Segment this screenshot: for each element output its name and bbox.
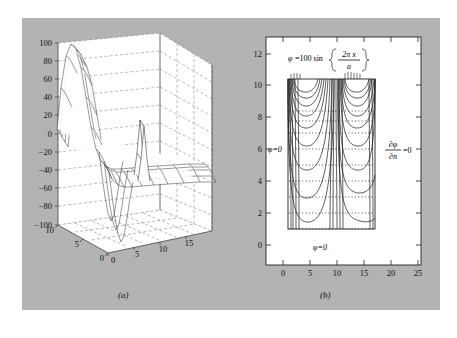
z-tick-m60: −60	[39, 183, 52, 193]
top-bc-numerator: 2π x	[342, 50, 356, 59]
annotation-bottom-bc: φ=0	[313, 243, 327, 252]
x-tick-25: 25	[414, 268, 423, 278]
x-tick-10: 10	[333, 268, 342, 278]
z-tick-100: 100	[39, 38, 52, 48]
z-axis: 100 80 60 40 20 0 −20 −40 −60 −80 −100	[34, 38, 58, 230]
x-tick-15: 15	[185, 238, 194, 248]
y-tick-0: 0	[258, 240, 262, 250]
x-tick-5: 5	[308, 268, 312, 278]
contour-svg: 12 10 8 6 4 2 0	[248, 25, 433, 290]
panel-a-surface-plot: 100 80 60 40 20 0 −20 −40 −60 −80 −100	[30, 25, 220, 290]
x-tick-10: 10	[159, 244, 168, 254]
figure-root: 100 80 60 40 20 0 −20 −40 −60 −80 −100	[0, 0, 457, 338]
top-bc-equals: =100 sin	[295, 54, 323, 63]
z-tick-40: 40	[44, 92, 53, 102]
y-tick-10: 10	[46, 225, 55, 235]
z-tick-60: 60	[44, 74, 53, 84]
top-bc-phi: φ	[288, 54, 293, 63]
z-tick-0: 0	[48, 129, 52, 139]
z-tick-m20: −20	[39, 147, 52, 157]
surface-svg: 100 80 60 40 20 0 −20 −40 −60 −80 −100	[30, 25, 220, 290]
y-tick-10: 10	[254, 80, 263, 90]
y-tick-2: 2	[258, 208, 262, 218]
y-tick-5: 5	[75, 239, 79, 249]
y-tick-4: 4	[258, 176, 263, 186]
z-tick-m80: −80	[39, 201, 52, 211]
z-tick-20: 20	[44, 110, 53, 120]
y-tick-8: 8	[258, 112, 262, 122]
x-tick-0: 0	[281, 268, 285, 278]
x-tick-15: 15	[360, 268, 369, 278]
x-tick-5: 5	[135, 249, 139, 259]
subfigure-label-b: (b)	[320, 290, 331, 300]
y-tick-6: 6	[258, 144, 262, 154]
panel-b-contour-plot: 12 10 8 6 4 2 0	[248, 25, 433, 290]
y-tick-12: 12	[254, 49, 263, 59]
y-tick-0: 0	[100, 253, 104, 263]
top-bc-denominator: a	[347, 62, 351, 71]
z-tick-80: 80	[44, 56, 53, 66]
right-bc-denominator: ∂n	[389, 152, 397, 161]
right-bc-equals: =0	[403, 146, 412, 155]
z-tick-m40: −40	[39, 165, 52, 175]
annotation-left-bc: φ=0	[268, 145, 282, 154]
subfigure-label-a: (a)	[118, 290, 129, 300]
x-tick-0: 0	[111, 255, 115, 265]
x-tick-20: 20	[387, 268, 396, 278]
right-bc-numerator: ∂φ	[389, 140, 398, 149]
